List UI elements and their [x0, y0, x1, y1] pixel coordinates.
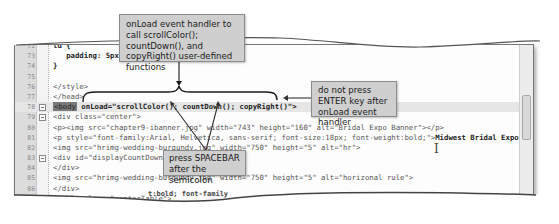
code-line[interactable]: 77</head>	[15, 92, 519, 102]
code-line[interactable]: 80<p><img src="chapter9-ibanner.jpg" wid…	[15, 123, 519, 133]
onload-attribute: onLoad="scrollColor(); countDown(); copy…	[77, 102, 297, 111]
body-tag-selected: <body	[53, 102, 77, 111]
code-line[interactable]: 74}	[15, 61, 519, 71]
code-line[interactable]: 75	[15, 72, 519, 82]
code-line[interactable]: 81<p style="font-family:Arial, Helvetica…	[15, 133, 519, 143]
vertical-scrollbar[interactable]	[519, 45, 533, 201]
callout-press-spacebar: press SPACEBAR after the semicolon	[163, 150, 246, 176]
code-line[interactable]: 76</style>	[15, 82, 519, 92]
fold-toggle-icon[interactable]	[39, 104, 46, 111]
code-line[interactable]: 84</div>	[15, 163, 519, 173]
code-lines: 72td { 73 padding: 5px; 74} 75 76</style…	[15, 44, 519, 202]
fold-toggle-icon[interactable]	[39, 196, 46, 202]
code-line[interactable]: 86</div>	[15, 184, 519, 194]
callout-no-enter: do not press ENTER key after onLoad even…	[311, 81, 397, 117]
code-line[interactable]: 85<img src="hrimg-wedding-burgundy.jpg" …	[15, 173, 519, 183]
code-line[interactable]: 87<table class="centerTable">	[15, 194, 519, 202]
code-editor[interactable]: 72td { 73 padding: 5px; 74} 75 76</style…	[14, 44, 534, 202]
code-line[interactable]: 73 padding: 5px;	[15, 51, 519, 61]
code-line[interactable]: 72td {	[15, 44, 519, 51]
code-line[interactable]: 82<img src="hrimg-wedding-burgundy.jpg" …	[15, 143, 519, 153]
callout-onload-handler: onLoad event handler to call scrollColor…	[119, 14, 245, 62]
scrollbar-thumb[interactable]	[522, 95, 531, 140]
bottom-code-fragment: t:bold; font-family	[148, 190, 228, 198]
code-line[interactable]: 83<div id="displayCountDown">	[15, 153, 519, 163]
text-cursor-icon: I	[434, 142, 439, 156]
fold-toggle-icon[interactable]	[39, 114, 46, 121]
code-line[interactable]: 79<div class="center">	[15, 112, 519, 122]
fold-toggle-icon[interactable]	[39, 155, 46, 162]
code-line-body-onload[interactable]: 78<body onLoad="scrollColor(); countDown…	[15, 102, 519, 112]
